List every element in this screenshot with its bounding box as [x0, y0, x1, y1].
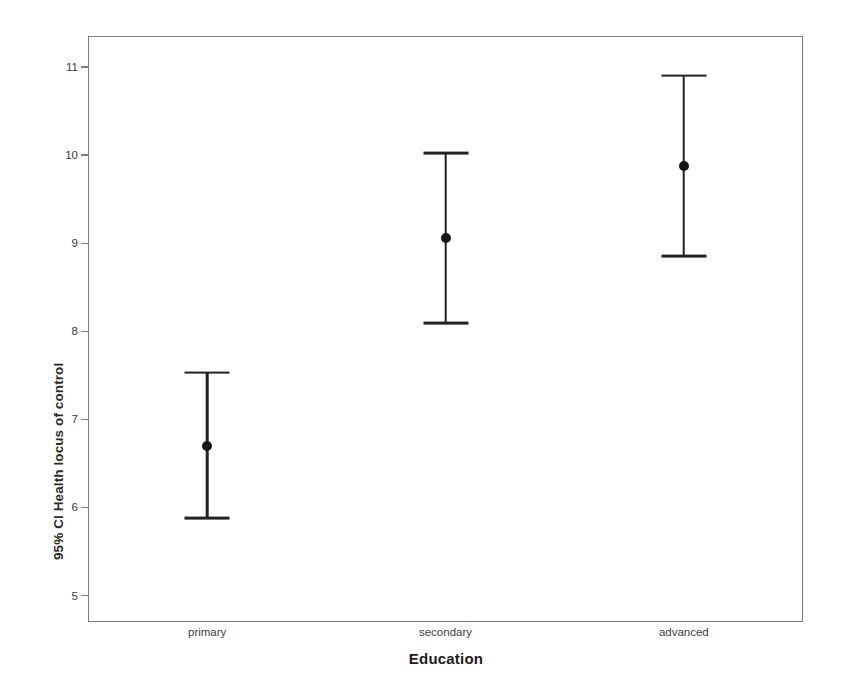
y-axis: 111098765: [0, 0, 88, 688]
x-axis-tick-label: advanced: [659, 626, 709, 638]
y-axis-tick-mark: [81, 66, 88, 67]
error-bar-chart: 95% CI Health locus of control 111098765…: [0, 0, 845, 688]
x-axis-tick-label: primary: [188, 626, 226, 638]
y-axis-tick-label: 11: [66, 58, 78, 76]
y-axis-tick-mark: [81, 595, 88, 596]
y-axis-tick-mark: [81, 243, 88, 244]
y-axis-tick-mark: [81, 419, 88, 420]
y-axis-tick-label: 9: [72, 234, 78, 252]
x-axis-title: Education: [88, 650, 804, 667]
y-axis-tick-mark: [81, 331, 88, 332]
y-axis-tick-mark: [81, 154, 88, 155]
x-axis-tick-label: secondary: [419, 626, 472, 638]
y-axis-tick-label: 5: [72, 587, 78, 605]
y-axis-tick-label: 7: [72, 410, 78, 428]
plot-area: [88, 36, 803, 622]
x-axis: primarysecondaryadvanced: [88, 626, 803, 648]
y-axis-tick-label: 8: [72, 322, 78, 340]
y-axis-tick-label: 6: [72, 498, 78, 516]
y-axis-tick-mark: [81, 507, 88, 508]
y-axis-tick-label: 10: [65, 146, 78, 164]
